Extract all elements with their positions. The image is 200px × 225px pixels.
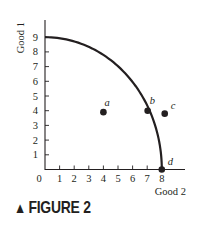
x-tick-label: 1: [57, 173, 62, 184]
data-points: abcd: [100, 95, 176, 173]
x-tick-label: 6: [130, 173, 135, 184]
figure-caption: ▲FIGURE 2: [14, 198, 91, 218]
x-tick-label: 2: [72, 173, 77, 184]
y-ticks: 123456789: [33, 32, 49, 161]
x-tick-label: 4: [101, 173, 107, 184]
x-tick-label: 0: [36, 173, 41, 184]
point-label-d: d: [168, 156, 174, 167]
y-tick-label: 3: [33, 120, 38, 131]
point-label-b: b: [150, 95, 155, 106]
y-tick-label: 7: [33, 61, 38, 72]
x-tick-label: 8: [159, 173, 164, 184]
point-d: [159, 166, 166, 173]
y-axis-title: Good 1: [15, 22, 26, 53]
y-tick-label: 2: [33, 135, 38, 146]
y-tick-label: 4: [33, 105, 39, 116]
x-tick-label: 7: [145, 173, 150, 184]
triangle-icon: ▲: [14, 199, 26, 216]
x-tick-label: 3: [86, 173, 91, 184]
figure-caption-text: FIGURE 2: [28, 198, 90, 217]
y-tick-label: 1: [33, 149, 38, 160]
y-tick-label: 9: [33, 32, 38, 43]
y-tick-label: 6: [33, 76, 38, 87]
point-a: [100, 109, 107, 116]
ppf-chart: 123456789 012345678 Good 1 Good 2 abcd: [0, 0, 200, 200]
point-c: [161, 110, 168, 117]
y-tick-label: 5: [33, 91, 38, 102]
point-b: [144, 107, 151, 114]
x-ticks: 012345678: [36, 166, 164, 185]
point-label-a: a: [104, 97, 109, 108]
x-axis-title: Good 2: [155, 186, 186, 197]
x-tick-label: 5: [115, 173, 120, 184]
point-label-c: c: [171, 100, 176, 111]
y-tick-label: 8: [33, 46, 38, 57]
ppf-curve: [45, 37, 162, 169]
